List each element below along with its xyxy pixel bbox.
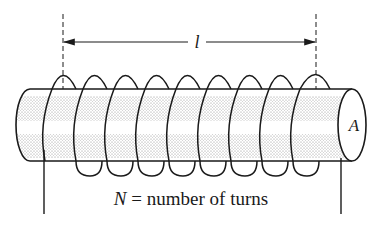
turns-caption: N = number of turns — [113, 188, 268, 209]
winding-top-arcs — [52, 75, 330, 90]
winding-bottom-loops — [76, 161, 319, 176]
core: A — [10, 89, 366, 161]
area-label: A — [348, 116, 360, 135]
turns-caption-text: = number of turns — [127, 188, 269, 209]
extension-lines — [63, 14, 316, 89]
length-label: l — [194, 32, 199, 52]
length-dimension: l — [64, 32, 315, 52]
solenoid-diagram: l A — [0, 0, 390, 226]
